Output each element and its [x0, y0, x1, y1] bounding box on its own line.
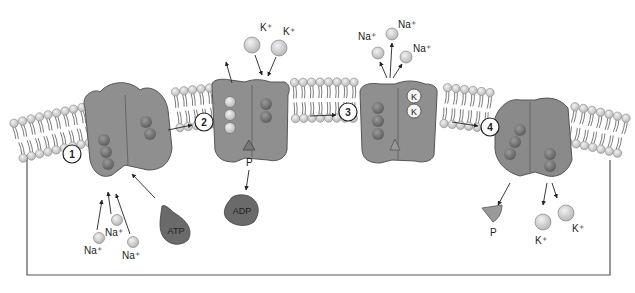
sodium-ion-intracellular: Na⁺	[122, 237, 140, 262]
pump-state-1	[84, 83, 172, 177]
pump-state-4	[495, 98, 572, 176]
potassium-ion-intracellular: K⁺	[558, 205, 584, 234]
svg-text:Na⁺: Na⁺	[413, 43, 431, 54]
sodium-ion-released: Na⁺	[400, 43, 431, 63]
step-4-marker: 4	[481, 118, 499, 136]
svg-text:1: 1	[69, 149, 75, 160]
svg-text:ATP: ATP	[168, 226, 185, 236]
svg-text:2: 2	[201, 117, 207, 128]
svg-text:K⁺: K⁺	[260, 22, 272, 33]
svg-text:Na⁺: Na⁺	[105, 227, 123, 238]
sodium-ion-intracellular: Na⁺	[84, 233, 105, 257]
adp-molecule: ADP	[224, 195, 258, 226]
atp-binding-arrow	[132, 174, 155, 198]
svg-text:K⁺: K⁺	[535, 235, 547, 246]
atp-molecule: ATP	[160, 206, 190, 245]
svg-text:K: K	[411, 92, 417, 102]
bound-potassium-ion: K	[407, 104, 421, 118]
released-phosphate: P	[482, 205, 502, 238]
potassium-ion-extracellular: K⁺	[244, 22, 272, 53]
potassium-ion-extracellular: K⁺	[271, 26, 295, 56]
svg-text:K⁺: K⁺	[572, 223, 584, 234]
svg-text:K: K	[411, 107, 417, 117]
na-k-pump-diagram: K K 1 2 3 4 K⁺	[0, 0, 635, 293]
na-release-arrows	[380, 43, 402, 78]
svg-text:Na⁺: Na⁺	[122, 250, 140, 261]
svg-text:Na⁺: Na⁺	[358, 31, 376, 42]
svg-text:3: 3	[345, 107, 351, 118]
pump-state-3: K K	[360, 81, 437, 163]
sodium-ion-intracellular: Na⁺	[105, 215, 123, 239]
sodium-ion-released: Na⁺	[358, 31, 384, 59]
svg-text:Na⁺: Na⁺	[84, 245, 102, 256]
svg-text:4: 4	[487, 122, 493, 133]
adp-release-arrow	[246, 170, 249, 190]
svg-text:ADP: ADP	[233, 206, 252, 216]
k-binding-arrows	[226, 55, 276, 83]
svg-text:P: P	[490, 227, 497, 238]
step-2-marker: 2	[195, 113, 213, 131]
bound-potassium-ion: K	[407, 89, 421, 103]
svg-text:Na⁺: Na⁺	[398, 19, 416, 30]
sodium-ion-released: Na⁺	[386, 19, 416, 40]
pump-state-2	[212, 79, 289, 162]
k-release-arrows	[543, 183, 557, 205]
step-1-marker: 1	[63, 145, 81, 163]
phosphate-release-arrow	[498, 183, 510, 205]
phosphate-bound-label: P	[246, 157, 253, 168]
potassium-ion-intracellular: K⁺	[535, 214, 551, 246]
svg-text:K⁺: K⁺	[283, 26, 295, 37]
step-3-marker: 3	[339, 103, 357, 121]
